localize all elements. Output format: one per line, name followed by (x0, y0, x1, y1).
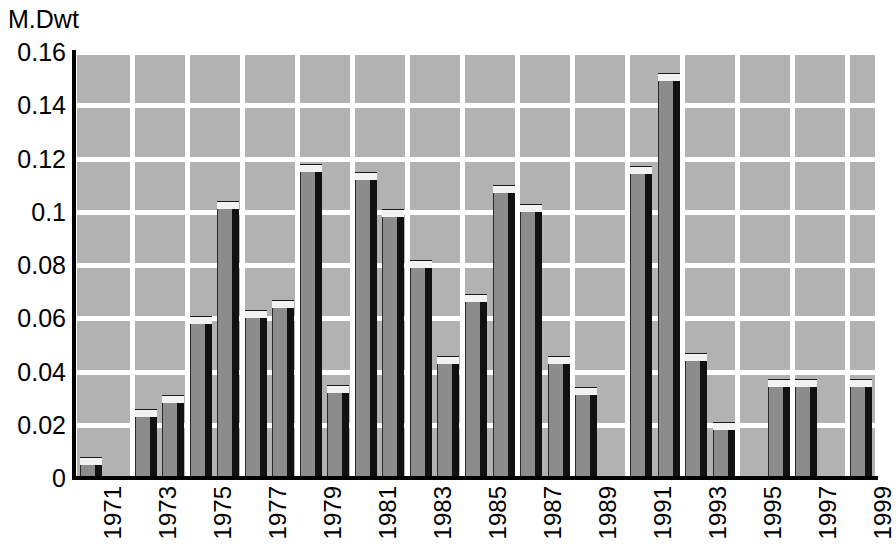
x-axis-tick-label: 1973 (156, 486, 180, 539)
bar (575, 387, 597, 478)
bar-side-face (231, 209, 239, 478)
bar-side-face (451, 364, 459, 478)
bar-front-face (355, 180, 370, 478)
bar-side-face (727, 430, 735, 478)
bar-top-face (713, 422, 735, 430)
y-axis-line (72, 50, 76, 480)
y-axis-tick-label: 0.08 (0, 253, 66, 278)
bar (80, 457, 102, 478)
x-axis-tick-label: 1977 (266, 486, 290, 539)
bar-series (77, 52, 875, 478)
bar-top-face (548, 356, 570, 364)
bar-front-face (327, 393, 342, 478)
bar-side-face (176, 403, 184, 478)
bar-side-face (562, 364, 570, 478)
x-axis-tick-label: 1991 (651, 486, 675, 539)
bar-front-face (465, 302, 480, 478)
bar-top-face (493, 185, 515, 193)
bar (850, 379, 872, 478)
x-axis-tick-labels: 1971197319751977197919811983198519871989… (0, 478, 878, 550)
bar-front-face (245, 318, 260, 478)
y-axis-tick-label: 0.1 (0, 199, 66, 224)
bar-front-face (768, 387, 783, 478)
y-axis-tick-label: 0.06 (0, 306, 66, 331)
bar (135, 409, 157, 478)
bar-top-face (80, 457, 102, 465)
bar-top-face (410, 260, 432, 268)
x-axis-tick-label: 1993 (706, 486, 730, 539)
bar (355, 172, 377, 478)
bar-side-face (644, 174, 652, 478)
bar (245, 310, 267, 478)
bar-front-face (548, 364, 563, 478)
bar-top-face (245, 310, 267, 318)
bar-top-face (272, 300, 294, 308)
bar-side-face (864, 387, 872, 478)
bar (548, 356, 570, 478)
y-axis-tick-label: 0.14 (0, 93, 66, 118)
bar (630, 166, 652, 478)
bar (162, 395, 184, 478)
y-axis-tick-label: 0.02 (0, 412, 66, 437)
bar-top-face (437, 356, 459, 364)
bar-side-face (699, 361, 707, 478)
bar-side-face (286, 308, 294, 478)
y-axis-tick-label: 0.04 (0, 359, 66, 384)
bar-top-face (217, 201, 239, 209)
y-axis-tick-label: 0.16 (0, 40, 66, 65)
bar-side-face (424, 268, 432, 478)
bar (437, 356, 459, 478)
bar (217, 201, 239, 478)
bar-front-face (630, 174, 645, 478)
bar-top-face (685, 353, 707, 361)
bar-side-face (479, 302, 487, 478)
bar-front-face (575, 395, 590, 478)
bar (327, 385, 349, 478)
x-axis-tick-label: 1975 (211, 486, 235, 539)
bar-front-face (217, 209, 232, 478)
bar-top-face (135, 409, 157, 417)
bar-side-face (369, 180, 377, 478)
bar-front-face (713, 430, 728, 478)
bar (493, 185, 515, 478)
bar-top-face (162, 395, 184, 403)
bar-front-face (135, 417, 150, 478)
x-axis-tick-label: 1971 (101, 486, 125, 539)
bar (410, 260, 432, 478)
bar-top-face (768, 379, 790, 387)
bar-front-face (382, 217, 397, 478)
bar-top-face (382, 209, 404, 217)
plot-area (77, 52, 875, 478)
bar-side-face (534, 212, 542, 478)
bar-front-face (520, 212, 535, 478)
bar-side-face (314, 172, 322, 478)
bar (272, 300, 294, 478)
bar (713, 422, 735, 478)
bar-side-face (809, 387, 817, 478)
bar-side-face (672, 81, 680, 478)
bar-side-face (589, 395, 597, 478)
bar-top-face (630, 166, 652, 174)
bar-top-face (327, 385, 349, 393)
bar (190, 316, 212, 478)
bar (685, 353, 707, 478)
x-axis-tick-label: 1989 (596, 486, 620, 539)
bar-top-face (658, 73, 680, 81)
bar-side-face (782, 387, 790, 478)
bar (768, 379, 790, 478)
bar-top-face (575, 387, 597, 395)
bar-side-face (341, 393, 349, 478)
bar (382, 209, 404, 478)
bar-top-face (795, 379, 817, 387)
x-axis-tick-label: 1987 (541, 486, 565, 539)
bar-side-face (149, 417, 157, 478)
bar (795, 379, 817, 478)
x-axis-tick-label: 1985 (486, 486, 510, 539)
bar-top-face (190, 316, 212, 324)
bar-front-face (190, 324, 205, 478)
bar-top-face (850, 379, 872, 387)
bar-front-face (658, 81, 673, 478)
x-axis-tick-label: 1997 (816, 486, 840, 539)
bar-front-face (162, 403, 177, 478)
bar-front-face (850, 387, 865, 478)
